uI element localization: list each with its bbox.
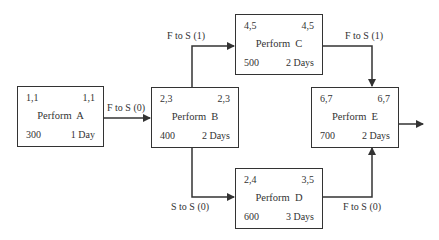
late-times: 4,5 [302,21,315,31]
late-times: 6,7 [378,94,391,104]
node-perform-b: 2,3 2,3 Perform B 400 2 Days [151,87,239,148]
node-title: Perform B [152,112,238,122]
link-label-d-e: F to S (0) [343,202,381,212]
link-b-c-arrow [192,46,234,87]
node-cost: 500 [244,58,259,68]
node-duration: 2 Days [362,131,390,141]
node-duration: 2 Days [286,58,314,68]
early-times: 2,4 [244,175,257,185]
late-times: 2,3 [218,94,231,104]
node-perform-d: 2,4 3,5 Perform D 600 3 Days [235,168,323,229]
node-cost: 300 [26,130,41,140]
node-cost: 400 [160,131,175,141]
early-times: 1,1 [26,93,39,103]
node-cost: 600 [244,212,259,222]
node-title: Perform C [236,39,322,49]
node-title: Perform D [236,193,322,203]
node-title: Perform A [18,111,103,121]
late-times: 3,5 [302,175,315,185]
node-perform-c: 4,5 4,5 Perform C 500 2 Days [235,14,323,75]
node-duration: 3 Days [286,212,314,222]
link-label-b-c: F to S (1) [167,31,205,41]
node-title: Perform E [312,112,398,122]
early-times: 6,7 [320,94,333,104]
late-times: 1,1 [83,93,96,103]
early-times: 4,5 [244,21,257,31]
link-label-b-d: S to S (0) [171,202,209,212]
link-label-c-e: F to S (1) [345,31,383,41]
link-d-e-arrow [322,148,372,197]
link-label-a-b: F to S (0) [107,103,145,113]
node-duration: 2 Days [202,131,230,141]
link-c-e-arrow [322,46,372,86]
early-times: 2,3 [160,94,173,104]
node-duration: 1 Day [71,130,95,140]
node-perform-a: 1,1 1,1 Perform A 300 1 Day [17,86,104,147]
node-cost: 700 [320,131,335,141]
link-b-d-arrow [192,147,234,197]
node-perform-e: 6,7 6,7 Perform E 700 2 Days [311,87,399,148]
